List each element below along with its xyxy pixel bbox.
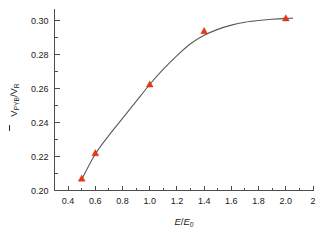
y-tick-label: 0.30 <box>31 16 49 26</box>
x-tick-label: 1.2 <box>171 196 184 206</box>
y-tick-label: 0.26 <box>31 84 49 94</box>
y-tick-label: 0.22 <box>31 152 49 162</box>
data-point <box>201 27 208 33</box>
x-tick-label: 1.8 <box>252 196 265 206</box>
data-point-markers <box>78 15 289 181</box>
x-tick-label: 1.6 <box>225 196 238 206</box>
x-axis-title: E/E0 <box>175 216 194 228</box>
y-axis-tick-labels: 0.200.220.240.260.280.30 <box>31 16 49 196</box>
svg-text:VPYB/VR: VPYB/VR <box>8 83 20 117</box>
scatter-plot-canvas: 0.40.60.81.01.21.41.61.82.02 0.200.220.2… <box>0 0 316 237</box>
y-tick-label: 0.20 <box>31 186 49 196</box>
plot-axes <box>55 9 314 191</box>
svg-text:E/E0: E/E0 <box>175 216 194 228</box>
y-tick-label: 0.24 <box>31 118 49 128</box>
x-axis-tick-labels: 0.40.60.81.01.21.41.61.82.02 <box>62 196 316 206</box>
chart-figure: 0.40.60.81.01.21.41.61.82.02 0.200.220.2… <box>0 0 316 237</box>
x-tick-label: 0.4 <box>62 196 75 206</box>
x-tick-label: 0.8 <box>116 196 129 206</box>
y-axis-title: VPYB/VR <box>8 83 20 130</box>
x-tick-label: 1.0 <box>143 196 156 206</box>
x-tick-label: 1.4 <box>198 196 211 206</box>
fit-curve-line <box>82 18 293 179</box>
x-tick-label: 0.6 <box>89 196 102 206</box>
y-tick-label: 0.28 <box>31 50 49 60</box>
x-tick-label: 2 <box>310 196 315 206</box>
x-tick-label: 2.0 <box>280 196 293 206</box>
